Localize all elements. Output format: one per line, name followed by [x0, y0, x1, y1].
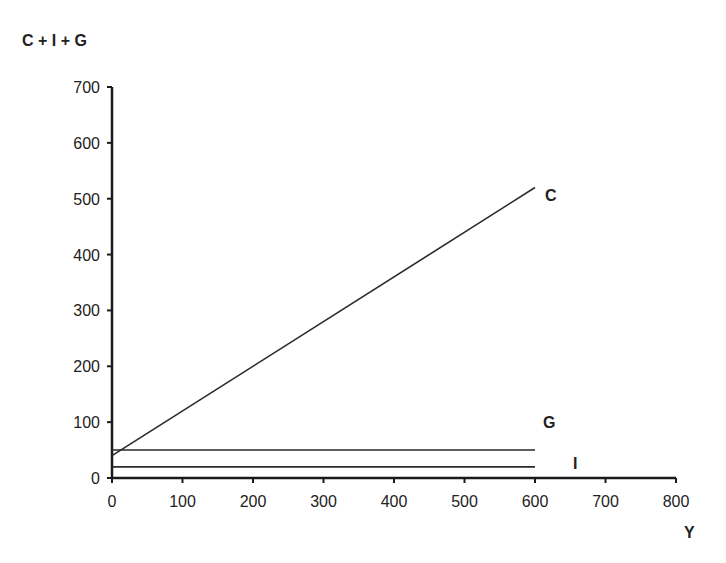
- series-line-c: [112, 188, 535, 456]
- y-tick-label: 700: [73, 79, 100, 96]
- x-tick-label: 0: [108, 493, 117, 510]
- x-tick-label: 700: [592, 493, 619, 510]
- y-axis-title: C + I + G: [22, 32, 87, 49]
- x-tick-label: 600: [522, 493, 549, 510]
- x-tick-label: 300: [310, 493, 337, 510]
- y-tick-label: 500: [73, 191, 100, 208]
- axes: 0100200300400500600700010020030040050060…: [73, 79, 689, 510]
- x-tick-label: 800: [663, 493, 690, 510]
- y-tick-label: 300: [73, 302, 100, 319]
- y-tick-label: 600: [73, 135, 100, 152]
- series-label-c: C: [545, 187, 557, 204]
- x-axis-title: Y: [684, 524, 695, 541]
- series-lines: [112, 188, 535, 467]
- series-labels: CGI: [543, 187, 577, 472]
- series-label-g: G: [543, 414, 555, 431]
- y-tick-label: 0: [91, 470, 100, 487]
- x-tick-label: 200: [240, 493, 267, 510]
- chart: C + I + G Y 0100200300400500600700010020…: [0, 0, 726, 563]
- x-tick-label: 400: [381, 493, 408, 510]
- x-tick-label: 500: [451, 493, 478, 510]
- x-tick-label: 100: [169, 493, 196, 510]
- y-tick-label: 200: [73, 358, 100, 375]
- series-label-i: I: [573, 455, 577, 472]
- y-tick-label: 400: [73, 247, 100, 264]
- y-tick-label: 100: [73, 414, 100, 431]
